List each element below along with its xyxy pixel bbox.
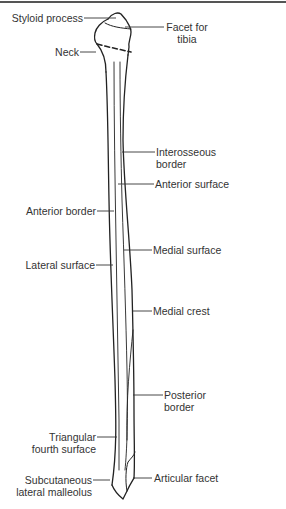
fibula-head-outline — [108, 13, 131, 55]
label-medial-crest: Medial crest — [153, 305, 210, 317]
label-line: border — [164, 401, 206, 413]
label-articular-facet: Articular facet — [154, 472, 218, 484]
label-medial-surface: Medial surface — [153, 244, 221, 256]
label-interosseous-border: Interosseous border — [156, 146, 216, 170]
label-line: Interosseous — [156, 146, 216, 158]
label-anterior-surface: Anterior surface — [155, 178, 229, 190]
label-anterior-border: Anterior border — [10, 205, 96, 217]
shaft-medial-edge — [123, 55, 134, 478]
label-line: Facet for — [162, 21, 212, 33]
label-line: border — [156, 158, 216, 170]
label-line: Posterior — [164, 389, 206, 401]
label-posterior-border: Posterior border — [164, 389, 206, 413]
label-line: Subcutaneous — [2, 474, 92, 486]
facet-for-tibia-outline — [105, 23, 131, 29]
label-triangular-fourth-surface: Triangular fourth surface — [10, 431, 96, 455]
label-neck: Neck — [40, 46, 79, 58]
label-line: tibia — [162, 33, 212, 45]
label-line: lateral malleolus — [2, 486, 92, 498]
label-lateral-surface: Lateral surface — [10, 259, 95, 271]
malleolus-outline — [112, 478, 134, 499]
label-facet-for-tibia: Facet for tibia — [162, 21, 212, 45]
label-subcutaneous-lateral-malleolus: Subcutaneous lateral malleolus — [2, 474, 92, 498]
label-line: fourth surface — [10, 443, 96, 455]
anterior-border-line — [114, 62, 119, 470]
medial-crest-line — [127, 330, 133, 440]
label-styloid-process: Styloid process — [2, 12, 83, 24]
label-line: Triangular — [10, 431, 96, 443]
